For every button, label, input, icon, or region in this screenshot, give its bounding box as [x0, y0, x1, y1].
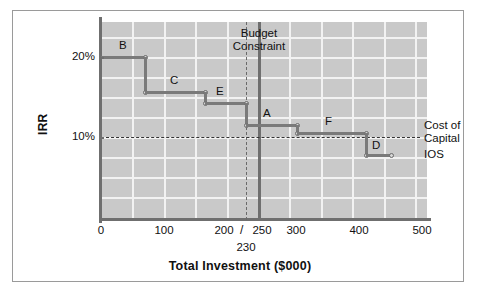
x-tick-separator: / [240, 223, 243, 237]
gridline-horizontal [101, 77, 427, 79]
step-label-d: D [372, 139, 381, 151]
gridline-vertical [132, 22, 134, 218]
figure-container: B C E A F D Budget Constraint Cost of Ca… [0, 0, 477, 295]
step-label-b: B [119, 39, 127, 51]
step-segment-d [366, 154, 391, 157]
budget-constraint-label-line2: Constraint [233, 40, 285, 52]
cost-of-capital-line [101, 137, 420, 138]
y-axis-line [99, 17, 102, 223]
step-label-a: A [263, 107, 271, 119]
step-riser-b-c [144, 57, 147, 92]
y-axis-title: IRR [36, 113, 50, 135]
y-tick-mark-10 [99, 137, 104, 139]
step-segment-b [101, 56, 146, 59]
y-tick-label-10: 10% [57, 130, 95, 142]
y-tick-label-20: 20% [57, 50, 95, 62]
cost-of-capital-label-line1: Cost of [424, 119, 460, 131]
x-tick-label-230: 230 [231, 241, 261, 253]
x-tick-label-100: 100 [149, 224, 179, 236]
gridline-vertical [164, 22, 166, 218]
step-label-e: E [216, 85, 224, 97]
cost-of-capital-label: Cost of Capital [424, 119, 460, 145]
y-tick-mark-20 [99, 57, 104, 59]
step-segment-f [297, 132, 366, 135]
x-tick-label-200: 200 [209, 224, 239, 236]
gridline-vertical [321, 22, 323, 218]
step-label-c: C [170, 74, 179, 86]
gridline-horizontal [101, 97, 427, 99]
ios-series-label: IOS [424, 148, 444, 160]
x-tick-label-250: 250 [247, 224, 277, 236]
step-segment-e [205, 102, 246, 105]
gridline-vertical [352, 22, 354, 218]
data-point-d-end [389, 153, 394, 158]
gridline-horizontal [101, 197, 427, 199]
budget-constraint-label: Budget Constraint [218, 27, 300, 53]
x-tick-label-400: 400 [344, 224, 374, 236]
budget-constraint-label-line1: Budget [241, 27, 277, 39]
gridline-vertical [195, 22, 197, 218]
x-axis-title: Total Investment ($000) [118, 259, 362, 273]
cost-of-capital-label-line2: Capital [424, 132, 460, 144]
gridline-vertical [384, 22, 386, 218]
x-tick-label-0: 0 [86, 224, 116, 236]
gridline-horizontal [101, 157, 427, 159]
x-tick-label-300: 300 [281, 224, 311, 236]
step-label-f: F [325, 115, 332, 127]
step-segment-a [246, 124, 297, 127]
step-riser-f-d [365, 133, 368, 155]
x-tick-label-500: 500 [407, 224, 437, 236]
gridline-horizontal [101, 177, 427, 179]
step-segment-c [145, 91, 205, 94]
gridline-horizontal [101, 57, 427, 59]
step-riser-e-a [245, 103, 248, 125]
x-axis-line [99, 218, 431, 221]
gridline-vertical [415, 22, 417, 218]
